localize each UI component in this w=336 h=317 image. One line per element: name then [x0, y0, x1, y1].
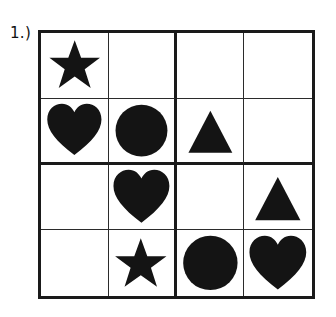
cell-r4c1[interactable]: [41, 230, 109, 296]
puzzle-grid: [38, 30, 315, 299]
cell-r3c3[interactable]: [177, 165, 245, 231]
cell-r1c4[interactable]: [244, 33, 312, 99]
cell-r3c4[interactable]: [244, 165, 312, 231]
cell-r4c2[interactable]: [109, 230, 177, 296]
star-icon: [44, 38, 105, 92]
cell-r2c4[interactable]: [244, 99, 312, 165]
cell-r2c2[interactable]: [109, 99, 177, 165]
cell-r1c2[interactable]: [109, 33, 177, 99]
puzzle-grid-cells: [41, 33, 312, 296]
cell-r2c1[interactable]: [41, 99, 109, 165]
star-icon: [111, 236, 171, 291]
triangle-icon: [181, 108, 240, 156]
circle-icon: [181, 234, 240, 292]
circle-icon: [113, 103, 170, 158]
heart-icon: [111, 168, 172, 226]
cell-r1c1[interactable]: [41, 33, 109, 99]
cell-r3c1[interactable]: [41, 165, 109, 231]
heart-icon: [246, 234, 310, 293]
triangle-icon: [248, 174, 308, 223]
shape-sudoku-puzzle: 1.): [0, 0, 336, 317]
cell-r4c4[interactable]: [244, 230, 312, 296]
cell-r4c3[interactable]: [177, 230, 245, 296]
cell-r1c3[interactable]: [177, 33, 245, 99]
problem-number-label: 1.): [10, 26, 31, 41]
cell-r3c2[interactable]: [109, 165, 177, 231]
cell-r2c3[interactable]: [177, 99, 245, 165]
heart-icon: [43, 102, 106, 158]
